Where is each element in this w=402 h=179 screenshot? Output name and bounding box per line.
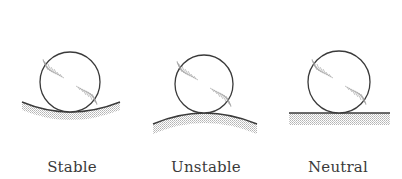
panel-neutral <box>289 51 390 125</box>
ball <box>40 52 100 112</box>
ball <box>308 51 370 113</box>
label-unstable: Unstable <box>171 158 241 176</box>
label-stable: Stable <box>47 158 97 176</box>
panel-stable <box>22 52 120 120</box>
panel-unstable <box>153 55 257 134</box>
flat-surface-shading <box>289 113 390 125</box>
equilibrium-diagram <box>0 0 402 179</box>
convex-surface-shading <box>153 113 257 134</box>
label-neutral: Neutral <box>308 158 368 176</box>
ball <box>175 55 233 113</box>
